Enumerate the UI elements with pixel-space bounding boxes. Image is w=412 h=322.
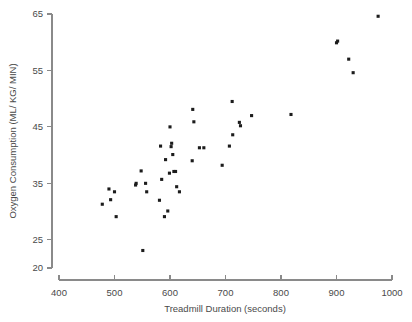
x-axis-tick-label: 1000 [381, 287, 402, 298]
data-point [140, 169, 143, 172]
x-axis-tick-label: 900 [329, 287, 345, 298]
data-points-layer [101, 15, 380, 252]
plot-canvas: 202535455565 4005006007008009001000 Oxyg… [0, 0, 412, 322]
data-point [174, 170, 177, 173]
data-point [145, 190, 148, 193]
data-point [198, 146, 201, 149]
data-point [144, 182, 147, 185]
data-point [377, 15, 380, 18]
data-point [170, 142, 173, 145]
data-point [221, 164, 224, 167]
y-axis-tick-label: 65 [32, 8, 43, 19]
data-point [228, 145, 231, 148]
x-axis-title: Treadmill Duration (seconds) [164, 303, 286, 314]
data-point [107, 187, 110, 190]
data-point [250, 114, 253, 117]
data-point [109, 198, 112, 201]
data-point [231, 133, 234, 136]
data-point [113, 190, 116, 193]
data-point [170, 145, 173, 148]
data-point [115, 215, 118, 218]
data-point [164, 158, 167, 161]
x-axis-tick-label: 700 [218, 287, 234, 298]
data-point [141, 249, 144, 252]
data-point [289, 113, 292, 116]
data-point [238, 121, 241, 124]
y-axis-tick-label: 20 [32, 262, 43, 273]
data-point [171, 153, 174, 156]
x-axis: 4005006007008009001000 [51, 275, 403, 298]
data-point [352, 71, 355, 74]
data-point [192, 120, 195, 123]
y-axis-tick-label: 35 [32, 178, 43, 189]
x-axis-tick-label: 800 [273, 287, 289, 298]
data-point [336, 40, 339, 43]
data-point [239, 124, 242, 127]
x-axis-tick-label: 500 [107, 287, 123, 298]
y-axis: 202535455565 [32, 8, 52, 273]
data-point [135, 182, 138, 185]
x-axis-tick-label: 600 [162, 287, 178, 298]
x-axis-tick-label: 400 [51, 287, 67, 298]
data-point [160, 178, 163, 181]
data-point [163, 215, 166, 218]
data-point [101, 203, 104, 206]
y-axis-tick-label: 45 [32, 121, 43, 132]
data-point [347, 58, 350, 61]
data-point [191, 159, 194, 162]
data-point [175, 185, 178, 188]
data-point [159, 145, 162, 148]
data-point [191, 108, 194, 111]
y-axis-tick-label: 25 [32, 234, 43, 245]
scatter-plot-figure: 202535455565 4005006007008009001000 Oxyg… [0, 0, 412, 322]
data-point [168, 125, 171, 128]
data-point [231, 100, 234, 103]
y-axis-title: Oxygen Consumption (ML/ KG/ MIN) [7, 63, 18, 218]
data-point [158, 199, 161, 202]
data-point [202, 146, 205, 149]
data-point [166, 209, 169, 212]
data-point [178, 190, 181, 193]
y-axis-tick-label: 55 [32, 65, 43, 76]
data-point [168, 172, 171, 175]
